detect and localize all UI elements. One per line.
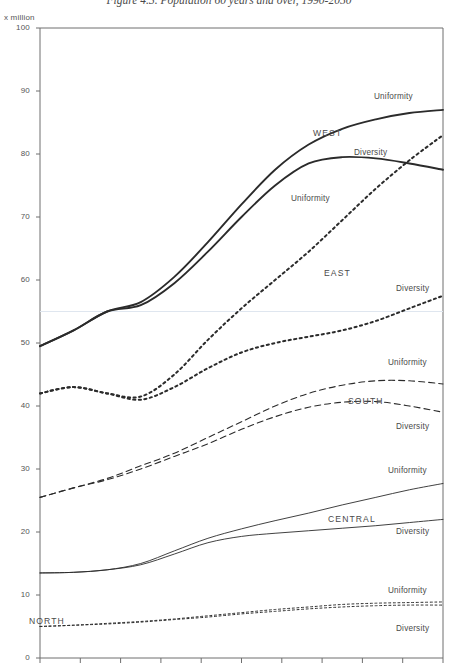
y-tick-label-10: 10 bbox=[6, 590, 30, 599]
y-tick-label-30: 30 bbox=[6, 464, 30, 473]
series-north-uniformity bbox=[40, 602, 443, 627]
label-central-diversity: Diversity bbox=[396, 527, 429, 536]
y-tick-label-50: 50 bbox=[6, 338, 30, 347]
series-central-diversity bbox=[40, 519, 443, 573]
y-tick-label-70: 70 bbox=[6, 212, 30, 221]
series-layer bbox=[40, 110, 443, 627]
y-tick-label-20: 20 bbox=[6, 527, 30, 536]
label-south-uniformity: Uniformity bbox=[388, 358, 427, 367]
label-east-uniformity: Uniformity bbox=[291, 194, 330, 203]
label-region-central: CENTRAL bbox=[328, 514, 376, 524]
axes-layer bbox=[36, 28, 443, 663]
label-south-diversity: Diversity bbox=[396, 422, 429, 431]
y-tick-label-90: 90 bbox=[6, 86, 30, 95]
series-south-diversity bbox=[40, 401, 443, 497]
label-north-diversity: Diversity bbox=[396, 624, 429, 633]
series-west-uniformity bbox=[40, 110, 443, 346]
y-tick-label-60: 60 bbox=[6, 275, 30, 284]
label-central-uniformity: Uniformity bbox=[388, 466, 427, 475]
y-tick-label-80: 80 bbox=[6, 149, 30, 158]
label-region-east: EAST bbox=[324, 268, 351, 278]
label-east-diversity: Diversity bbox=[396, 284, 429, 293]
y-tick-label-40: 40 bbox=[6, 401, 30, 410]
label-region-west: WEST bbox=[313, 128, 342, 138]
label-north-uniformity: Uniformity bbox=[388, 586, 427, 595]
y-tick-label-0: 0 bbox=[6, 653, 30, 662]
label-region-north: NORTH bbox=[29, 616, 65, 626]
label-west-uniformity: Uniformity bbox=[374, 92, 413, 101]
label-west-diversity: Diversity bbox=[354, 148, 387, 157]
y-tick-label-100: 100 bbox=[6, 23, 30, 32]
label-region-south: SOUTH bbox=[348, 396, 384, 406]
figure-container: Figure 4.3. Population 60 years and over… bbox=[0, 0, 458, 664]
series-central-uniformity bbox=[40, 483, 443, 572]
series-east-uniformity bbox=[40, 135, 443, 398]
